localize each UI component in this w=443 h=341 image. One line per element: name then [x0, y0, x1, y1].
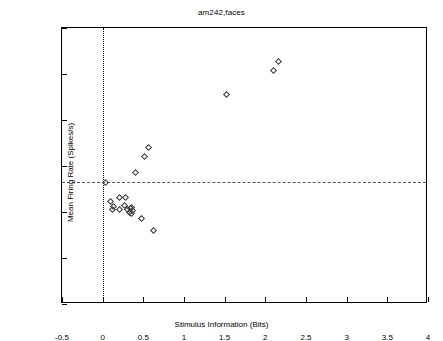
data-point — [138, 215, 145, 222]
x-tick-label: 1.5 — [205, 334, 245, 341]
x-tick-label: 0 — [83, 334, 123, 341]
x-tick-label: 3 — [327, 334, 367, 341]
data-point — [223, 91, 230, 98]
x-tick-label: 4 — [408, 334, 443, 341]
data-point — [141, 153, 148, 160]
x-tick-mark — [387, 297, 388, 302]
horizontal-reference-line — [62, 182, 426, 183]
x-tick-mark — [184, 297, 185, 302]
x-tick-mark — [306, 297, 307, 302]
vertical-reference-line — [103, 28, 104, 302]
x-tick-mark — [428, 297, 429, 302]
x-tick-mark — [225, 297, 226, 302]
x-tick-label: 2 — [245, 334, 285, 341]
x-tick-label: 1 — [164, 334, 204, 341]
x-tick-label: -0.5 — [42, 334, 82, 341]
y-tick-mark — [62, 304, 67, 305]
data-point — [145, 144, 152, 151]
x-tick-label: 0.5 — [123, 334, 163, 341]
page-title: am242,faces — [0, 8, 443, 17]
y-tick-mark — [62, 28, 67, 29]
x-tick-label: 2.5 — [286, 334, 326, 341]
x-tick-mark — [347, 297, 348, 302]
x-tick-label: 3.5 — [367, 334, 407, 341]
x-tick-mark — [143, 297, 144, 302]
plot-area: 020406080100120 -0.500.511.522.533.54 Me… — [61, 27, 427, 303]
data-point — [275, 58, 282, 65]
x-tick-mark — [62, 297, 63, 302]
scatter-plot-figure: am242,faces 020406080100120 -0.500.511.5… — [0, 0, 443, 341]
x-tick-mark — [103, 297, 104, 302]
y-axis-title: Mean Firing Rate (Spikes/s) — [66, 43, 75, 303]
x-tick-mark — [265, 297, 266, 302]
data-point — [150, 227, 157, 234]
data-point — [270, 67, 277, 74]
data-point — [122, 194, 129, 201]
x-axis-title: Stimulus Information (Bits) — [0, 320, 443, 329]
data-point — [132, 169, 139, 176]
